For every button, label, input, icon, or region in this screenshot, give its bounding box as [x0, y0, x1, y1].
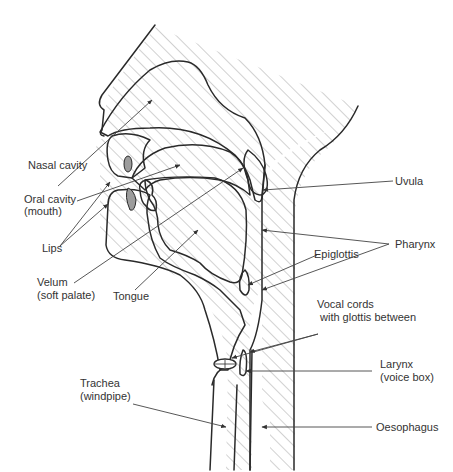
label-nasal-cavity: Nasal cavity	[28, 159, 88, 171]
label-oral-cavity-sub: (mouth)	[24, 205, 62, 217]
upper-lip-tissue	[124, 156, 132, 172]
label-epiglottis: Epiglottis	[314, 248, 359, 260]
label-oesophagus: Oesophagus	[376, 421, 439, 433]
label-uvula: Uvula	[395, 175, 424, 187]
label-velum-sub: (soft palate)	[37, 289, 95, 301]
label-trachea: Trachea	[80, 377, 121, 389]
label-oral-cavity: Oral cavity	[24, 193, 76, 205]
label-trachea-sub: (windpipe)	[80, 390, 131, 402]
label-vocal-cords-sub: with glottis between	[319, 311, 416, 323]
diagram-canvas: Nasal cavity Oral cavity (mouth) Lips Ve…	[0, 0, 453, 472]
label-larynx-sub: (voice box)	[380, 371, 434, 383]
trachea-front	[210, 380, 214, 470]
vocal-cords	[214, 359, 236, 369]
label-lips: Lips	[42, 242, 63, 254]
label-pharynx: Pharynx	[395, 238, 436, 250]
label-tongue: Tongue	[113, 290, 149, 302]
vocal-tract-diagram: Nasal cavity Oral cavity (mouth) Lips Ve…	[0, 0, 453, 472]
label-velum: Velum	[37, 276, 68, 288]
label-vocal-cords: Vocal cords	[317, 298, 374, 310]
label-larynx: Larynx	[380, 358, 414, 370]
